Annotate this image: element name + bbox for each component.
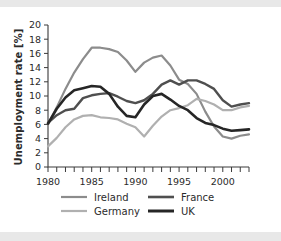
- y-tick-label: 16: [29, 48, 41, 59]
- legend-label-france: France: [181, 192, 214, 203]
- y-tick-label: 20: [29, 19, 41, 30]
- legend-label-uk: UK: [181, 206, 195, 217]
- y-tick-label: 8: [35, 105, 41, 116]
- legend-label-germany: Germany: [94, 206, 140, 217]
- chart-figure: Unemployment rate [%] 02468101214161820 …: [0, 0, 281, 241]
- legend-label-ireland: Ireland: [94, 192, 129, 203]
- x-tick-marks: [48, 167, 249, 172]
- y-tick-label: 2: [35, 147, 41, 158]
- y-tick-label: 18: [29, 34, 41, 45]
- x-tick-labels: 19801985199019952000: [36, 176, 235, 187]
- y-tick-label: 10: [29, 90, 41, 101]
- x-tick-label: 1985: [80, 176, 104, 187]
- y-tick-label: 4: [35, 133, 41, 144]
- x-tick-label: 2000: [211, 176, 235, 187]
- x-tick-label: 1995: [167, 176, 191, 187]
- series-line-ireland: [48, 48, 249, 139]
- series-line-germany: [48, 99, 249, 147]
- line-chart: Unemployment rate [%] 02468101214161820 …: [0, 0, 281, 241]
- y-tick-label: 14: [29, 62, 41, 73]
- x-tick-label: 1990: [123, 176, 147, 187]
- y-tick-label: 6: [35, 119, 41, 130]
- x-tick-label: 1980: [36, 176, 60, 187]
- y-tick-label: 0: [35, 161, 41, 172]
- y-tick-label: 12: [29, 76, 41, 87]
- series-lines: [48, 48, 249, 147]
- chart-legend: IrelandFranceGermanyUK: [61, 192, 214, 217]
- y-axis-label: Unemployment rate [%]: [13, 29, 24, 166]
- y-axis-label-text: Unemployment rate [%]: [13, 29, 24, 166]
- y-tick-labels: 02468101214161820: [29, 19, 41, 172]
